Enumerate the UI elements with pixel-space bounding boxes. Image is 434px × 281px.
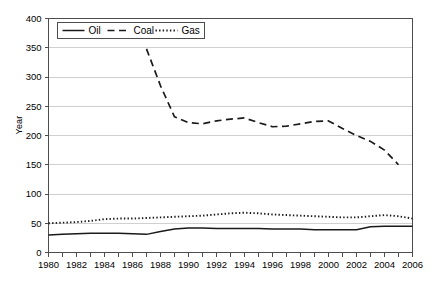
- svg-text:2004: 2004: [374, 259, 395, 270]
- svg-text:350: 350: [26, 42, 42, 53]
- line-chart: Year 050100150200250300350400 1980198219…: [0, 0, 434, 281]
- svg-text:1998: 1998: [290, 259, 311, 270]
- svg-text:200: 200: [26, 130, 42, 141]
- x-tick-marks: [49, 253, 413, 257]
- svg-text:1986: 1986: [122, 259, 143, 270]
- chart-legend: OilCoalGas: [58, 23, 205, 39]
- chart-canvas: 050100150200250300350400 198019821984198…: [0, 0, 434, 281]
- legend-label-coal: Coal: [134, 25, 155, 36]
- svg-text:2006: 2006: [402, 259, 423, 270]
- svg-text:2002: 2002: [346, 259, 367, 270]
- svg-text:1980: 1980: [38, 259, 59, 270]
- svg-text:300: 300: [26, 71, 42, 82]
- x-tick-labels: 1980198219841986198819901992199419961998…: [38, 259, 423, 270]
- svg-text:50: 50: [31, 218, 42, 229]
- svg-text:250: 250: [26, 101, 42, 112]
- y-tick-marks: [45, 19, 49, 253]
- svg-text:2000: 2000: [318, 259, 339, 270]
- series-line-gas: [49, 213, 413, 224]
- legend-label-oil: Oil: [89, 25, 101, 36]
- svg-text:1994: 1994: [234, 259, 255, 270]
- svg-text:1990: 1990: [178, 259, 199, 270]
- svg-text:1996: 1996: [262, 259, 283, 270]
- svg-text:0: 0: [36, 247, 41, 258]
- series-line-coal: [147, 49, 399, 165]
- svg-text:1992: 1992: [206, 259, 227, 270]
- svg-text:1984: 1984: [94, 259, 115, 270]
- svg-text:400: 400: [26, 13, 42, 24]
- y-gridlines: [49, 19, 413, 224]
- svg-text:100: 100: [26, 188, 42, 199]
- svg-text:150: 150: [26, 159, 42, 170]
- y-tick-labels: 050100150200250300350400: [26, 13, 42, 258]
- svg-text:1982: 1982: [66, 259, 87, 270]
- series-line-oil: [49, 226, 413, 235]
- svg-text:1988: 1988: [150, 259, 171, 270]
- legend-label-gas: Gas: [182, 25, 200, 36]
